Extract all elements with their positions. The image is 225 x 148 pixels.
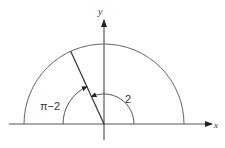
x-axis-label: x [213, 120, 218, 130]
y-axis-label: y [97, 6, 103, 17]
angle-pi-minus-2-arc [63, 87, 87, 124]
angle-2-label: 2 [125, 93, 131, 105]
angle-diagram: y x 2 π−2 [0, 0, 225, 148]
terminal-ray [71, 51, 104, 124]
angle-pi-minus-2-label: π−2 [40, 100, 60, 112]
